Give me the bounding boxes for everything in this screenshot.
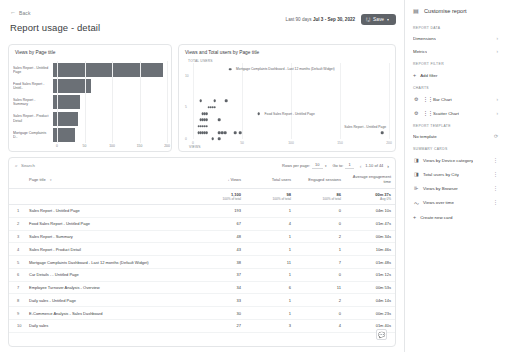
row-page-title[interactable]: E-Commerce Analysis - Sales Dashboard bbox=[25, 307, 195, 320]
sidebar-item-metrics[interactable]: Metrics› bbox=[405, 45, 506, 58]
sidebar-item-scatter-chart[interactable]: ⚙⋮⋮Scatter Chart› bbox=[405, 106, 506, 120]
scatter-point[interactable] bbox=[218, 119, 221, 122]
chevron-right-icon[interactable]: › bbox=[496, 111, 498, 116]
search-input[interactable]: Search bbox=[21, 163, 35, 168]
chevron-right-icon[interactable]: › bbox=[496, 49, 498, 54]
more-vert-icon[interactable]: ⋮ bbox=[493, 200, 498, 205]
table-row[interactable]: 10Daily sales273401m 40s bbox=[9, 320, 395, 333]
row-page-title[interactable]: Car Details - - Untitled Page bbox=[25, 268, 195, 281]
row-avg-engagement-time: 01m 48s bbox=[345, 256, 395, 269]
row-page-title[interactable]: Sales Report - Summary bbox=[25, 230, 195, 243]
scatter-point[interactable] bbox=[224, 131, 227, 134]
chevron-left-icon[interactable]: ‹ bbox=[360, 163, 362, 169]
scatter-point[interactable] bbox=[239, 131, 242, 134]
th-total-users[interactable]: Total users bbox=[245, 171, 295, 189]
plus-icon: + bbox=[413, 72, 416, 78]
date-range-picker[interactable]: Last 90 days Jul 3 - Sep 30, 2022 bbox=[286, 17, 355, 22]
row-page-title[interactable]: Employee Turnover Analysis - Overview bbox=[25, 281, 195, 294]
more-vert-icon[interactable]: ⋮ bbox=[493, 186, 498, 191]
sidebar-add-label: Create new card bbox=[420, 215, 452, 220]
bar-chart-x-axis: 050100150200 bbox=[57, 143, 167, 153]
goto-page[interactable]: Go to: 1 bbox=[333, 162, 354, 169]
scatter-point[interactable] bbox=[221, 131, 224, 134]
bar-row[interactable]: Mortgage Complaints D.. bbox=[13, 128, 167, 142]
totals-subvalue: 100% of total bbox=[249, 197, 291, 201]
row-page-title[interactable]: Mortgage Complaints Dashboard - Last 12 … bbox=[25, 256, 195, 269]
drag-handle-icon[interactable]: ⋮⋮ bbox=[423, 96, 429, 102]
sidebar-add-filter-button[interactable]: +Add filter bbox=[405, 68, 506, 82]
chevron-right-icon[interactable]: › bbox=[387, 163, 389, 169]
bar-row[interactable]: Sales Report - Product Detail bbox=[13, 112, 167, 126]
sidebar-item-label: Bar Chart bbox=[433, 97, 452, 102]
drag-handle-icon[interactable]: ⋮⋮ bbox=[423, 110, 429, 116]
sidebar-item-label: Views by Device category bbox=[423, 158, 473, 163]
header-actions: Last 90 days Jul 3 - Sep 30, 2022 🖫 Save… bbox=[286, 14, 396, 25]
sidebar-create-new-card-button[interactable]: +Create new card bbox=[405, 210, 506, 224]
scatter-point[interactable] bbox=[229, 68, 232, 71]
th-avg-engagement-time[interactable]: Average engagement time bbox=[345, 171, 395, 189]
more-vert-icon[interactable]: ⋮ bbox=[493, 158, 498, 163]
table-row[interactable]: 7Employee Turnover Analysis - Overview34… bbox=[9, 281, 395, 294]
table-row[interactable]: 4Sales Report - Product Detail431110m 46… bbox=[9, 243, 395, 256]
scatter-point[interactable] bbox=[381, 131, 384, 134]
search-box[interactable]: ⌕ Search bbox=[15, 163, 35, 168]
search-icon: ⌕ bbox=[15, 163, 18, 168]
row-page-title[interactable]: Sales Report - Untitled Page bbox=[25, 205, 195, 218]
scatter-x-tick: 0 bbox=[192, 141, 194, 145]
row-page-title[interactable]: Daily sales bbox=[25, 320, 195, 333]
row-page-title[interactable]: Daily sales - Untitled Page bbox=[25, 294, 195, 307]
rows-per-page[interactable]: Rows per page: 10 ▾ bbox=[282, 162, 326, 169]
bar-icon: ⊪ bbox=[413, 185, 419, 191]
goto-value[interactable]: 1 bbox=[345, 162, 353, 169]
table-row[interactable]: 6Car Details - - Untitled Page371001m 12… bbox=[9, 268, 395, 281]
save-button[interactable]: 🖫 Save ▾ bbox=[361, 14, 396, 25]
table-row[interactable]: 8Daily sales - Untitled Page331204m 14s bbox=[9, 294, 395, 307]
row-total-users: 11 bbox=[245, 256, 295, 269]
scatter-point[interactable] bbox=[202, 112, 205, 115]
row-total-users: 1 bbox=[245, 294, 295, 307]
chevron-right-icon[interactable]: › bbox=[496, 36, 498, 41]
scatter-point[interactable] bbox=[218, 138, 221, 141]
sidebar-item-total-users-by-city[interactable]: ◨Total users by City⋮ bbox=[405, 167, 506, 181]
scatter-point[interactable] bbox=[200, 100, 203, 103]
scatter-point[interactable] bbox=[257, 112, 260, 115]
sidebar-item-views-over-time[interactable]: 〜Views over time⋮ bbox=[405, 195, 506, 210]
scatter-point[interactable] bbox=[198, 125, 201, 128]
th-engaged-sessions[interactable]: Engaged sessions bbox=[295, 171, 345, 189]
bar-row[interactable]: Sales Report - Untitled Page bbox=[13, 63, 167, 77]
bar-category-label: Sales Report - Summary bbox=[13, 98, 53, 106]
bar-row[interactable]: Sales Report - Summary bbox=[13, 95, 167, 109]
sidebar-item-views-by-browser[interactable]: ⊪Views by Browser⋮ bbox=[405, 181, 506, 195]
row-page-title[interactable]: Sales Report - Product Detail bbox=[25, 243, 195, 256]
table-row[interactable]: 2Food Sales Report - Untitled Page674001… bbox=[9, 217, 395, 230]
th-views[interactable]: ↓Views bbox=[195, 171, 245, 189]
scatter-chart-card[interactable]: Views and Total users by Page title TOTA… bbox=[178, 44, 396, 152]
bar-chart-card[interactable]: Views by Page title Sales Report - Untit… bbox=[8, 44, 172, 152]
bar-row[interactable]: Food Sales Report - Untitl.. bbox=[13, 79, 167, 93]
table-row[interactable]: 3Sales Report - Summary481200m 34s bbox=[9, 230, 395, 243]
rows-per-page-value[interactable]: 10 bbox=[312, 162, 322, 169]
chat-bubble-icon[interactable]: 💬 bbox=[376, 329, 387, 340]
sidebar-item-views-by-device-category[interactable]: ◨Views by Device category⋮ bbox=[405, 153, 506, 167]
scatter-point[interactable] bbox=[211, 138, 214, 141]
scatter-point[interactable] bbox=[234, 131, 237, 134]
sidebar-title: Customise report bbox=[424, 8, 467, 14]
th-page-title[interactable]: Page title ▾ bbox=[25, 171, 195, 189]
table-row[interactable]: 9E-Commerce Analysis - Sales Dashboard30… bbox=[9, 307, 395, 320]
row-page-title[interactable]: Food Sales Report - Untitled Page bbox=[25, 217, 195, 230]
sidebar-item-bar-chart[interactable]: ⚙⋮⋮Bar Chart› bbox=[405, 92, 506, 106]
refresh-icon[interactable]: ⟳ bbox=[494, 134, 498, 139]
table-row[interactable]: 5Mortgage Complaints Dashboard - Last 12… bbox=[9, 256, 395, 269]
scatter-point[interactable] bbox=[198, 131, 201, 134]
scatter-point[interactable] bbox=[213, 100, 216, 103]
scatter-point[interactable] bbox=[207, 106, 210, 109]
table-row[interactable]: 1Sales Report - Untitled Page1931004m 10… bbox=[9, 205, 395, 218]
scatter-point[interactable] bbox=[200, 119, 203, 122]
scatter-point[interactable] bbox=[225, 100, 228, 103]
more-vert-icon[interactable]: ⋮ bbox=[493, 172, 498, 177]
row-index: 10 bbox=[9, 320, 25, 333]
sidebar-item-no-template[interactable]: No template⟳ bbox=[405, 130, 506, 143]
chevron-right-icon[interactable]: › bbox=[496, 97, 498, 102]
sidebar-item-dimensions[interactable]: Dimensions› bbox=[405, 32, 506, 45]
arrow-left-icon: ← bbox=[10, 8, 16, 17]
